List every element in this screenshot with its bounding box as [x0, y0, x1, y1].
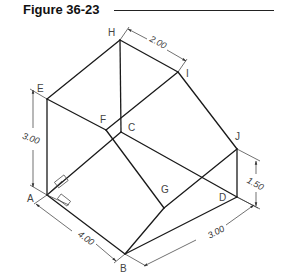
label-e: E: [37, 83, 44, 94]
object-edges: [47, 40, 237, 254]
label-i: I: [186, 68, 189, 79]
dim-text-1-50: 1.50: [245, 175, 265, 192]
dim-text-4-00: 4.00: [76, 229, 96, 247]
label-g: G: [161, 184, 169, 195]
label-d: D: [219, 192, 226, 203]
label-j: J: [235, 131, 240, 142]
dim-text-3-00-right: 3.00: [206, 224, 226, 241]
dimension-top-width: 2.00: [120, 27, 187, 72]
dim-text-3-00-left: 3.00: [21, 131, 41, 146]
dimension-right-height: 1.50: [237, 149, 265, 209]
dimension-front-length: 4.00: [34, 195, 125, 263]
dimension-right-depth: 3.00: [125, 197, 258, 266]
isometric-drawing: H I E F C J G D A B 2.00 3.00 4.: [0, 0, 281, 280]
label-c: C: [128, 122, 135, 133]
label-h: H: [108, 27, 115, 38]
label-b: B: [120, 263, 127, 274]
label-a: A: [27, 193, 34, 204]
axis-triad-icon: [47, 175, 71, 206]
dimension-left-height: 3.00: [21, 89, 47, 195]
label-f: F: [100, 114, 106, 125]
dim-text-2-00: 2.00: [147, 33, 168, 51]
